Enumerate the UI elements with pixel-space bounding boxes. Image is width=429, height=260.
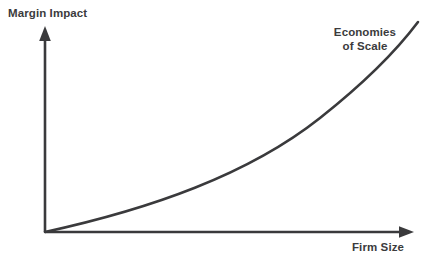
- annotation-line-2: of Scale: [330, 40, 400, 54]
- annotation-line-1: Economies: [330, 26, 400, 40]
- chart-canvas: Margin Impact Firm Size Economies of Sca…: [0, 0, 429, 260]
- y-axis-label: Margin Impact: [8, 7, 87, 20]
- economies-of-scale-annotation: Economies of Scale: [330, 26, 400, 53]
- x-axis-label: Firm Size: [352, 241, 404, 254]
